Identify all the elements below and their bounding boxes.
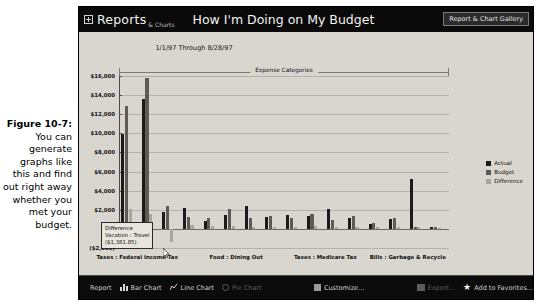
bar-budget[interactable]	[372, 223, 375, 229]
tooltip-series: Difference	[105, 225, 149, 232]
bar-budget[interactable]	[166, 206, 169, 228]
tooltip-value: ($1,381.85)	[105, 239, 149, 246]
export-icon	[417, 284, 425, 291]
y-axis-tick-label: $10,000	[90, 130, 119, 136]
bar-difference[interactable]	[170, 229, 173, 242]
expand-box-icon[interactable]	[84, 15, 93, 24]
bar-difference[interactable]	[438, 228, 441, 229]
bar-actual[interactable]	[265, 217, 268, 228]
toolbar-export: Export...	[417, 284, 455, 292]
bar-difference[interactable]	[314, 226, 317, 229]
bar-difference[interactable]	[376, 227, 379, 228]
bar-group[interactable]	[263, 76, 284, 248]
bar-budget[interactable]	[187, 217, 190, 229]
bar-actual[interactable]	[204, 221, 207, 229]
bar-difference[interactable]	[397, 227, 400, 228]
bar-actual[interactable]	[224, 215, 227, 229]
bar-actual[interactable]	[410, 179, 413, 229]
toolbar-add-to-favorites[interactable]: ★Add to Favorites...	[463, 284, 533, 292]
x-axis-label: Food : Dining Out	[210, 254, 263, 260]
legend-swatch-icon	[486, 161, 491, 166]
bar-actual[interactable]	[121, 134, 124, 229]
bar-budget[interactable]	[145, 78, 148, 229]
bar-budget[interactable]	[352, 216, 355, 228]
bar-actual[interactable]	[286, 215, 289, 229]
chart-legend: ActualBudgetDifference	[486, 160, 523, 187]
bar-difference[interactable]	[294, 227, 297, 229]
bar-actual[interactable]	[142, 99, 145, 229]
bar-group[interactable]	[243, 76, 264, 248]
bar-actual[interactable]	[348, 218, 351, 229]
y-axis-tick-label: $8,000	[94, 149, 119, 155]
x-axis-label: Taxes : Medicare Tax	[294, 254, 357, 260]
bar-budget[interactable]	[434, 227, 437, 229]
bar-budget[interactable]	[207, 218, 210, 229]
legend-item[interactable]: Difference	[486, 178, 523, 184]
toolbar-item-label: Pie Chart	[232, 284, 262, 292]
bar-difference[interactable]	[273, 227, 276, 229]
toolbar-item-label: Bar Chart	[131, 284, 162, 292]
toolbar-item-label: Line Chart	[181, 284, 214, 292]
bar-difference[interactable]	[335, 227, 338, 229]
bar-budget[interactable]	[249, 218, 252, 229]
bar-actual[interactable]	[369, 224, 372, 229]
bar-budget[interactable]	[228, 209, 231, 229]
bar-group[interactable]	[305, 76, 326, 248]
bar-actual[interactable]	[245, 206, 248, 229]
bar-actual[interactable]	[162, 212, 165, 229]
bar-group[interactable]	[284, 76, 305, 248]
toolbar-bar-chart[interactable]: Bar Chart	[120, 284, 162, 292]
bar-budget[interactable]	[290, 218, 293, 229]
bar-group[interactable]	[222, 76, 243, 248]
bar-budget[interactable]	[414, 227, 417, 229]
bar-group[interactable]	[428, 76, 449, 248]
bar-budget[interactable]	[269, 216, 272, 229]
legend-swatch-icon	[486, 179, 491, 184]
bar-group[interactable]	[181, 76, 202, 248]
page-title: How I'm Doing on My Budget	[193, 12, 375, 27]
plot-area: $16,000$14,000$12,000$10,000$8,000$6,000…	[119, 76, 449, 248]
report-chart-gallery-button[interactable]: Report & Chart Gallery	[443, 12, 529, 26]
tooltip-category: Vacation : Travel	[105, 232, 149, 239]
bar-actual[interactable]	[307, 216, 310, 228]
y-axis-tick-label: $14,000	[90, 92, 119, 98]
figure-caption: Figure 10-7: You can generate graphs lik…	[0, 118, 72, 231]
bar-group[interactable]	[160, 76, 181, 248]
bar-group[interactable]	[387, 76, 408, 248]
bar-difference[interactable]	[355, 227, 358, 229]
bottom-toolbar: ReportBar ChartLine ChartPie ChartCustom…	[79, 275, 533, 299]
bar-difference[interactable]	[232, 226, 235, 229]
legend-label: Actual	[494, 160, 512, 166]
bar-group[interactable]	[408, 76, 429, 248]
y-axis-tick-label: $16,000	[90, 73, 119, 79]
bar-actual[interactable]	[183, 208, 186, 229]
bar-budget[interactable]	[125, 106, 128, 229]
bar-actual[interactable]	[430, 227, 433, 229]
bar-difference[interactable]	[190, 225, 193, 229]
bar-budget[interactable]	[310, 214, 313, 229]
bar-actual[interactable]	[327, 209, 330, 229]
toolbar-line-chart[interactable]: Line Chart	[170, 284, 214, 292]
data-point-tooltip: Difference Vacation : Travel ($1,381.85)	[101, 222, 153, 249]
pie-chart-icon	[222, 284, 229, 291]
bar-difference[interactable]	[252, 227, 255, 229]
bar-group[interactable]	[346, 76, 367, 248]
bar-actual[interactable]	[389, 219, 392, 229]
app-name: Reports	[97, 12, 146, 27]
bar-group[interactable]	[325, 76, 346, 248]
legend-item[interactable]: Actual	[486, 160, 523, 166]
toolbar-customize[interactable]: Customize...	[314, 284, 364, 292]
toolbar-report[interactable]: Report	[87, 284, 112, 292]
bar-group[interactable]	[367, 76, 388, 248]
chart-subtitle: 1/1/97 Through 8/28/97	[79, 44, 309, 52]
star-icon: ★	[463, 284, 471, 291]
bar-difference[interactable]	[211, 226, 214, 229]
legend-swatch-icon	[486, 170, 491, 175]
y-axis-tick-label: $2,000	[94, 207, 119, 213]
bar-budget[interactable]	[331, 220, 334, 229]
legend-item[interactable]: Budget	[486, 169, 523, 175]
customize-icon	[314, 284, 321, 291]
bar-budget[interactable]	[393, 218, 396, 229]
bar-group[interactable]	[202, 76, 223, 248]
bar-difference[interactable]	[417, 227, 420, 229]
